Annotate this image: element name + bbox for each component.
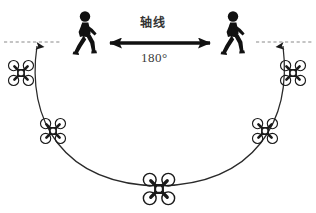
drone-1 bbox=[9, 61, 34, 86]
angle-label: 180° bbox=[141, 50, 168, 66]
drone-flight-arc bbox=[35, 46, 284, 186]
drone-trajectory-diagram: 轴线 180° bbox=[0, 0, 316, 213]
drone-3 bbox=[143, 173, 174, 204]
pedestrian-left bbox=[73, 11, 97, 55]
drone-2 bbox=[41, 119, 66, 144]
pedestrian-right bbox=[221, 11, 245, 55]
diagram-canvas bbox=[0, 0, 316, 213]
axis-line-label: 轴线 bbox=[140, 13, 165, 30]
